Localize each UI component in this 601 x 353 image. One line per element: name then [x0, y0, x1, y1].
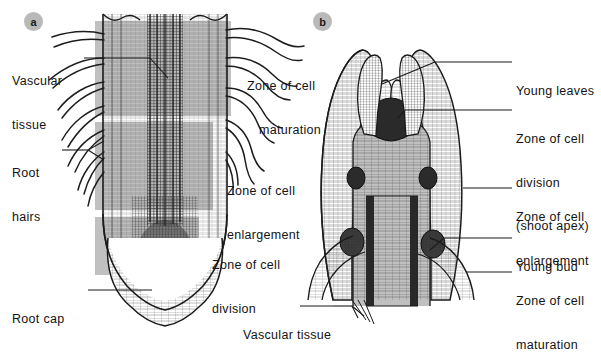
shoot-apex-longitudinal-section — [308, 50, 474, 324]
label-line-1: Zone of cell — [516, 210, 589, 225]
label-root-cap: Root cap — [12, 283, 64, 353]
label-line-2: maturation — [247, 123, 321, 138]
panel-badge-b: b — [313, 12, 332, 31]
label-vascular-tissue-b: Vascular tissue — [243, 299, 331, 353]
label-line-1: Root cap — [12, 312, 64, 327]
panel-badge-a: a — [24, 12, 43, 31]
label-line-1: Zone of cell — [212, 258, 280, 273]
label-zone-of-cell-maturation-a: Zone of cell maturation — [247, 50, 321, 166]
label-line-1: Vascular — [12, 74, 62, 89]
zone-band-maturation — [95, 21, 231, 116]
label-line-1: Root — [12, 166, 41, 181]
label-line-1: Zone of cell — [516, 294, 584, 309]
label-root-hairs: Root hairs — [12, 137, 41, 253]
zone-band-enlargement — [95, 122, 213, 210]
label-line-1: Zone of cell — [227, 184, 300, 199]
label-line-1: Vascular tissue — [243, 328, 331, 343]
label-line-1: Young leaves — [516, 84, 594, 99]
label-zone-of-cell-maturation-b: Zone of cell maturation — [516, 265, 584, 353]
zone-band-division — [95, 217, 199, 275]
label-line-2: hairs — [12, 210, 41, 225]
label-line-2: maturation — [516, 338, 584, 353]
label-line-2: tissue — [12, 118, 62, 133]
label-line-1: Zone of cell — [247, 79, 321, 94]
label-line-1: Zone of cell — [516, 132, 589, 147]
